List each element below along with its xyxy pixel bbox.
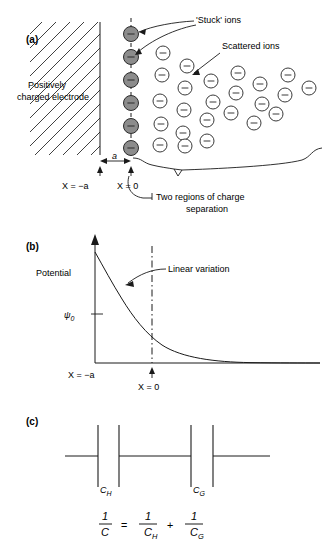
scattered-ion bbox=[155, 68, 169, 82]
x-zero-marker-panel-a: X = 0 bbox=[117, 166, 138, 191]
scattered-ion bbox=[206, 95, 220, 109]
stuck-ion bbox=[124, 27, 139, 42]
scattered-ion bbox=[180, 59, 194, 73]
x-zero-marker-panel-b: X = 0 bbox=[138, 367, 159, 392]
x-neg-a-marker-panel-a: X = −a bbox=[62, 166, 103, 191]
scattered-ion bbox=[278, 88, 292, 102]
scattered-ion bbox=[156, 46, 170, 60]
linear-variation-leader bbox=[128, 269, 166, 283]
scattered-ions-group bbox=[153, 46, 316, 153]
scattered-ion bbox=[253, 77, 267, 91]
scattered-ion bbox=[255, 97, 269, 111]
scattered-ion bbox=[153, 94, 167, 108]
scattered-ion bbox=[200, 113, 214, 127]
scattered-ion bbox=[269, 107, 283, 121]
scattered-ion bbox=[200, 134, 214, 148]
panel-b-label: (b) bbox=[26, 241, 39, 252]
scattered-ion bbox=[281, 68, 295, 82]
scattered-ion bbox=[176, 126, 190, 140]
capacitor-h-label: CH bbox=[100, 485, 113, 497]
stuck-ions-arrowhead-1 bbox=[139, 29, 146, 35]
equation-plus-sign: + bbox=[167, 519, 174, 531]
scattered-ion bbox=[302, 81, 316, 95]
stuck-ions-leader-1 bbox=[139, 21, 194, 32]
x-neg-a-label-panel-b: X = −a bbox=[68, 370, 95, 380]
scattered-ion bbox=[177, 103, 191, 117]
stuck-ion bbox=[124, 50, 139, 65]
stuck-ion bbox=[124, 96, 139, 111]
equation-lhs-numerator: 1 bbox=[102, 510, 108, 522]
potential-axis-label: Potential bbox=[36, 268, 71, 278]
capacitance-equation: 1 C = 1 CH + 1 CG bbox=[99, 510, 204, 541]
stuck-ion bbox=[124, 73, 139, 88]
dimension-a-label: a bbox=[112, 151, 117, 161]
charge-regions-label-line1: Two regions of charge bbox=[156, 192, 245, 202]
equation-term1-numerator: 1 bbox=[145, 510, 151, 522]
panel-c-label: (c) bbox=[26, 416, 38, 427]
scattered-ion bbox=[231, 66, 245, 80]
stuck-ion bbox=[124, 141, 139, 156]
x-zero-label-panel-b: X = 0 bbox=[138, 382, 159, 392]
electrode-label-line1: Positively bbox=[28, 80, 67, 90]
series-capacitor-circuit bbox=[65, 425, 270, 487]
figure-canvas: (a) bbox=[0, 0, 330, 545]
panel-a-label: (a) bbox=[26, 34, 38, 45]
scattered-ion bbox=[154, 117, 168, 131]
scattered-ion bbox=[204, 74, 218, 88]
potential-y-axis bbox=[91, 234, 99, 363]
equation-term2-numerator: 1 bbox=[191, 510, 197, 522]
scattered-ion bbox=[229, 86, 243, 100]
scattered-ion bbox=[178, 81, 192, 95]
scattered-ion bbox=[178, 139, 192, 153]
panel-c: (c) CH CG bbox=[26, 416, 270, 541]
stuck-ions-label: 'Stuck' ions bbox=[196, 15, 241, 25]
equation-term2-denominator: CG bbox=[190, 526, 204, 541]
panel-b: (b) Potential ψ0 Linear variation bbox=[26, 234, 320, 392]
scattered-ion bbox=[224, 106, 238, 120]
psi-zero-marker: ψ0 bbox=[64, 310, 103, 322]
electrochemical-double-layer-figure: (a) bbox=[0, 0, 330, 545]
scattered-ion bbox=[153, 138, 167, 152]
equation-equals-sign: = bbox=[121, 519, 128, 531]
psi-zero-label: ψ0 bbox=[64, 310, 75, 322]
stuck-ion bbox=[124, 119, 139, 134]
panel-a: (a) bbox=[17, 15, 322, 214]
scattered-ions-label: Scattered ions bbox=[222, 41, 280, 51]
capacitor-g-label: CG bbox=[193, 485, 206, 497]
equation-term1-denominator: CH bbox=[144, 526, 158, 541]
equation-lhs-denominator: C bbox=[101, 526, 109, 538]
charge-regions-label-line2: separation bbox=[186, 204, 228, 214]
scattered-ion bbox=[247, 116, 261, 130]
electrode-label-line2: charged electrode bbox=[17, 92, 89, 102]
x-neg-a-label-panel-a: X = −a bbox=[62, 181, 89, 191]
linear-variation-label: Linear variation bbox=[168, 264, 230, 274]
